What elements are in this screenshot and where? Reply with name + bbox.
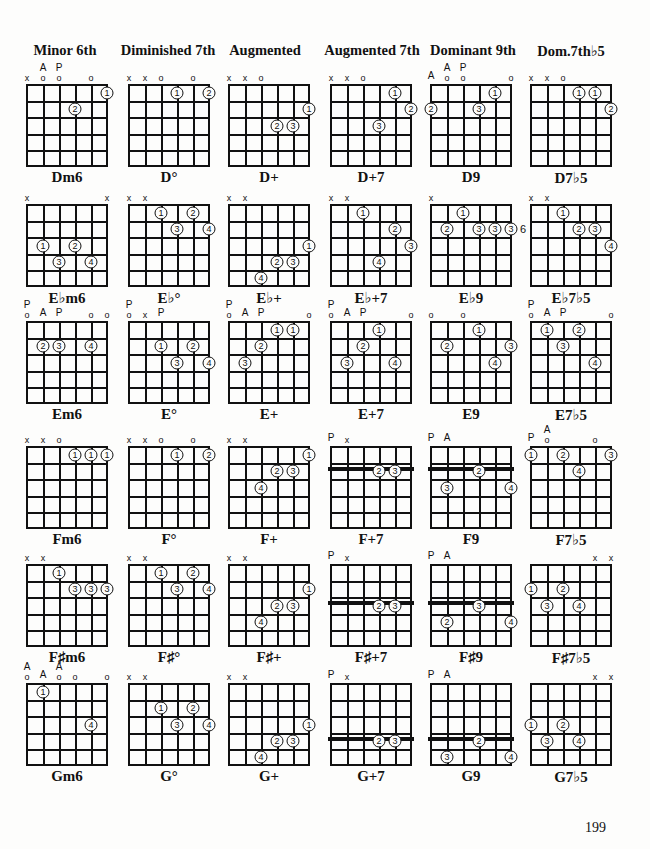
finger-dot: 4	[605, 239, 618, 252]
muted-string-mark: x	[227, 673, 232, 682]
chord-name: G7♭5	[516, 768, 626, 786]
open-string-mark: o	[190, 74, 195, 83]
string-letter: P	[56, 308, 63, 318]
finger-dot: 1	[155, 207, 168, 220]
finger-dot: 2	[187, 207, 200, 220]
barre-bar	[428, 601, 514, 605]
fretboard-grid	[128, 683, 210, 766]
finger-dot: 3	[101, 583, 114, 596]
finger-dot: 3	[389, 465, 402, 478]
finger-dot: 2	[405, 103, 418, 116]
finger-dot: 3	[53, 255, 66, 268]
fretboard-grid	[26, 84, 108, 167]
finger-dot: 1	[357, 207, 370, 220]
chord-name: G°	[114, 768, 224, 785]
string-letter: A	[24, 662, 31, 672]
muted-string-mark: x	[127, 554, 132, 563]
open-string-mark: o	[104, 311, 109, 320]
finger-dot: 4	[573, 465, 586, 478]
chord-name: Gm6	[12, 768, 122, 785]
finger-dot: 4	[203, 718, 216, 731]
muted-string-mark: x	[143, 554, 148, 563]
finger-dot: 1	[37, 686, 50, 699]
open-string-mark: o	[56, 436, 61, 445]
chord-name: Dm6	[12, 169, 122, 186]
column-header: Dom.7th♭5	[516, 42, 626, 60]
finger-dot: 3	[287, 119, 300, 132]
muted-string-mark: x	[609, 554, 614, 563]
finger-dot: 1	[303, 103, 316, 116]
open-string-mark: o	[360, 74, 365, 83]
finger-dot: 1	[489, 87, 502, 100]
open-string-mark: o	[72, 673, 77, 682]
muted-string-mark: x	[243, 554, 248, 563]
barre-bar	[428, 737, 514, 741]
string-letter: A	[40, 670, 47, 680]
string-letter: A	[242, 308, 249, 318]
muted-string-mark: x	[227, 194, 232, 203]
muted-string-mark: x	[105, 194, 110, 203]
string-letter: P	[428, 433, 435, 443]
finger-dot: 3	[541, 734, 554, 747]
string-letter: A	[444, 551, 451, 561]
chord-name: F♯7♭5	[516, 649, 626, 667]
open-string-mark: o	[226, 311, 231, 320]
finger-dot: 3	[541, 599, 554, 612]
string-letter: A	[40, 308, 47, 318]
finger-dot: 3	[287, 599, 300, 612]
fretboard-grid	[228, 683, 310, 766]
finger-dot: 3	[473, 599, 486, 612]
muted-string-mark: x	[227, 436, 232, 445]
chord-name: Em6	[12, 406, 122, 423]
finger-dot: 1	[541, 324, 554, 337]
column-header: Augmented 7th	[317, 42, 427, 59]
finger-dot: 2	[37, 340, 50, 353]
muted-string-mark: x	[345, 554, 350, 563]
string-letter: P	[328, 433, 335, 443]
finger-dot: 4	[489, 356, 502, 369]
fretboard-grid	[530, 446, 612, 529]
finger-dot: 3	[341, 356, 354, 369]
open-string-mark: o	[158, 74, 163, 83]
finger-dot: 3	[489, 223, 502, 236]
chord-name: G+7	[316, 768, 426, 785]
finger-dot: 3	[389, 734, 402, 747]
muted-string-mark: x	[227, 74, 232, 83]
open-string-mark: o	[508, 74, 513, 83]
finger-dot: 2	[203, 449, 216, 462]
open-string-mark: o	[88, 74, 93, 83]
open-string-mark: o	[608, 311, 613, 320]
fretboard-grid	[330, 683, 412, 766]
muted-string-mark: x	[41, 436, 46, 445]
finger-dot: 1	[271, 324, 284, 337]
string-letter: P	[226, 300, 233, 310]
finger-dot: 3	[441, 481, 454, 494]
muted-string-mark: x	[243, 194, 248, 203]
column-header: Minor 6th	[10, 42, 120, 59]
open-string-mark: o	[408, 311, 413, 320]
finger-dot: 4	[389, 356, 402, 369]
finger-dot: 1	[101, 87, 114, 100]
finger-dot: 4	[85, 718, 98, 731]
fretboard-grid	[26, 564, 108, 647]
muted-string-mark: x	[345, 673, 350, 682]
chord-name: D+7	[316, 169, 426, 186]
muted-string-mark: x	[143, 74, 148, 83]
chord-name: D°	[114, 169, 224, 186]
finger-dot: 3	[171, 356, 184, 369]
chord-name: D+	[214, 169, 324, 186]
finger-dot: 2	[441, 615, 454, 628]
chord-name: E+	[214, 406, 324, 423]
finger-dot: 2	[271, 465, 284, 478]
finger-dot: 2	[441, 223, 454, 236]
finger-dot: 3	[473, 223, 486, 236]
finger-dot: 2	[373, 734, 386, 747]
chord-name: E♭9	[416, 289, 526, 307]
open-string-mark: o	[544, 436, 549, 445]
fretboard-grid	[430, 204, 512, 287]
fret-position-label: 6	[520, 223, 526, 235]
finger-dot: 2	[203, 87, 216, 100]
finger-dot: 3	[405, 239, 418, 252]
finger-dot: 4	[203, 583, 216, 596]
finger-dot: 1	[53, 567, 66, 580]
